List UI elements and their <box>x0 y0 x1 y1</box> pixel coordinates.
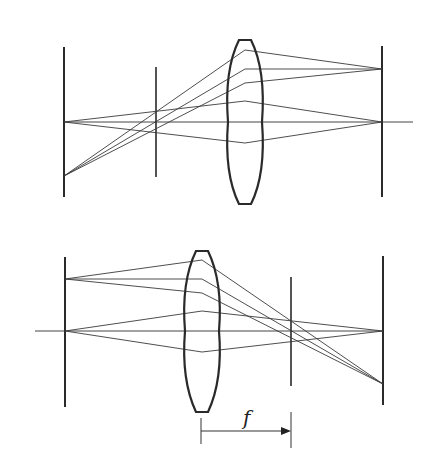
focal-length-label: f <box>241 406 254 430</box>
optics-diagram: f <box>0 0 432 476</box>
top-off-axis-rays <box>64 50 382 176</box>
arrowhead-icon <box>281 427 291 435</box>
bottom-off-axis-rays <box>65 260 383 384</box>
bottom-diagram: f <box>35 251 383 448</box>
focal-length-marker: f <box>201 406 291 448</box>
top-diagram <box>64 40 413 204</box>
